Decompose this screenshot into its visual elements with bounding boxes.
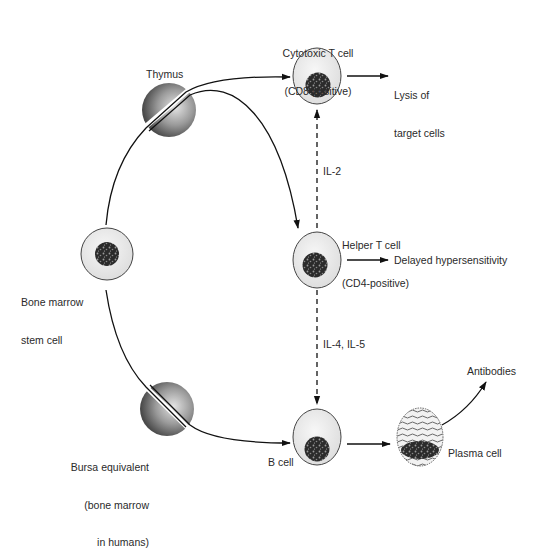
label-il4-il5: IL-4, IL-5	[323, 338, 365, 351]
label-stem-line1: Bone marrow	[21, 296, 83, 309]
b-cell	[293, 409, 341, 465]
label-helper-line1: Helper T cell	[342, 239, 409, 252]
bone-marrow-stem-cell	[81, 228, 133, 280]
label-bursa-line1: Bursa equivalent	[55, 461, 149, 474]
label-thymus: Thymus	[146, 68, 183, 81]
label-antibodies: Antibodies	[467, 365, 516, 378]
label-cytotoxic-line2: (CD8-positive)	[277, 85, 359, 98]
label-lysis-line2: target cells	[394, 127, 445, 140]
bursa-pathway	[106, 290, 290, 443]
label-bursa-line2: (bone marrow	[55, 499, 149, 512]
label-cytotoxic-t-cell: Cytotoxic T cell (CD8-positive)	[277, 22, 359, 110]
label-bone-marrow-stem-cell: Bone marrow stem cell	[21, 271, 83, 359]
label-plasma-cell: Plasma cell	[448, 447, 502, 460]
label-il2: IL-2	[323, 165, 341, 178]
label-helper-line2: (CD4-positive)	[342, 277, 409, 290]
label-bursa-line3: in humans)	[55, 536, 149, 549]
helper-t-cell	[293, 232, 341, 288]
label-lysis: Lysis of target cells	[394, 64, 445, 152]
label-stem-line2: stem cell	[21, 334, 83, 347]
label-lysis-line1: Lysis of	[394, 89, 445, 102]
label-delayed-hypersensitivity: Delayed hypersensitivity	[394, 254, 507, 267]
label-b-cell: B cell	[268, 456, 294, 469]
label-bursa-equivalent: Bursa equivalent (bone marrow in humans)	[55, 436, 149, 552]
plasma-cell	[397, 408, 443, 466]
label-cytotoxic-line1: Cytotoxic T cell	[277, 47, 359, 60]
thymus-pathways	[106, 77, 298, 228]
